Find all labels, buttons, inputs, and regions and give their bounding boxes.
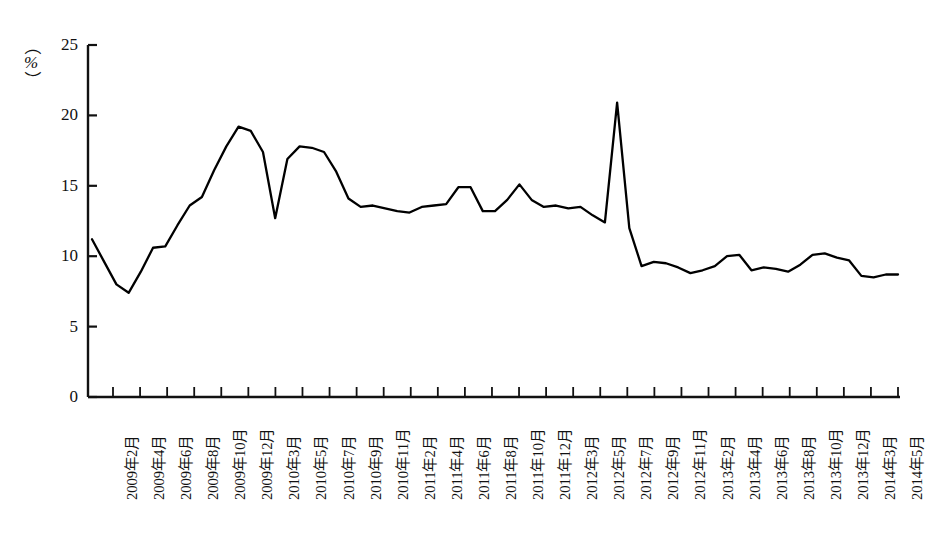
x-axis-ticks bbox=[113, 387, 898, 397]
paren-bottom-glyph: ） bbox=[27, 63, 36, 97]
paren-top-glyph: （ bbox=[27, 30, 36, 64]
x-tick-label: 2013年10月 bbox=[824, 429, 845, 501]
y-tick-label: 15 bbox=[50, 177, 78, 194]
x-tick-label: 2009年6月 bbox=[174, 436, 195, 500]
x-tick-label: 2012年9月 bbox=[661, 436, 682, 500]
x-tick-label: 2011年4月 bbox=[445, 436, 466, 500]
x-tick-label: 2014年3月 bbox=[878, 436, 899, 500]
line-chart: （ % ） 0510152025 2009年2月2009年4月2009年6月20… bbox=[0, 0, 928, 538]
x-tick-label: 2011年12月 bbox=[553, 429, 574, 500]
data-series-group bbox=[92, 103, 898, 293]
x-tick-label: 2012年7月 bbox=[634, 436, 655, 500]
x-tick-label: 2010年5月 bbox=[309, 436, 330, 500]
x-tick-label: 2011年6月 bbox=[472, 436, 493, 500]
x-tick-label: 2011年8月 bbox=[499, 436, 520, 500]
x-tick-label: 2010年7月 bbox=[337, 436, 358, 500]
x-tick-label: 2010年3月 bbox=[282, 436, 303, 500]
x-tick-label: 2012年3月 bbox=[580, 436, 601, 500]
y-axis-ticks bbox=[88, 45, 97, 397]
x-tick-label: 2013年8月 bbox=[797, 436, 818, 500]
x-tick-label: 2012年5月 bbox=[607, 436, 628, 500]
x-tick-label: 2011年2月 bbox=[418, 436, 439, 500]
y-tick-label: 10 bbox=[50, 247, 78, 264]
x-tick-label: 2009年2月 bbox=[120, 436, 141, 500]
x-tick-label: 2009年4月 bbox=[147, 436, 168, 500]
x-tick-label: 2009年12月 bbox=[255, 429, 276, 501]
x-tick-label: 2011年10月 bbox=[526, 429, 547, 500]
y-tick-label: 20 bbox=[50, 106, 78, 123]
x-tick-label: 2010年9月 bbox=[364, 436, 385, 500]
y-tick-label: 5 bbox=[50, 318, 78, 335]
y-tick-label: 0 bbox=[50, 388, 78, 405]
x-tick-label: 2013年6月 bbox=[770, 436, 791, 500]
x-tick-label: 2013年2月 bbox=[716, 436, 737, 500]
x-tick-label: 2012年11月 bbox=[688, 429, 709, 500]
x-tick-label: 2009年8月 bbox=[201, 436, 222, 500]
series-line-growth-rate bbox=[92, 103, 898, 293]
x-tick-label: 2009年10月 bbox=[228, 429, 249, 501]
x-tick-label: 2013年4月 bbox=[743, 436, 764, 500]
x-tick-label: 2014年5月 bbox=[905, 436, 926, 500]
x-tick-label: 2010年11月 bbox=[391, 429, 412, 500]
unit-label-percent: （ % ） bbox=[14, 42, 48, 96]
y-tick-label: 25 bbox=[50, 36, 78, 53]
axes-group bbox=[88, 45, 900, 397]
x-tick-label: 2013年12月 bbox=[851, 429, 872, 501]
